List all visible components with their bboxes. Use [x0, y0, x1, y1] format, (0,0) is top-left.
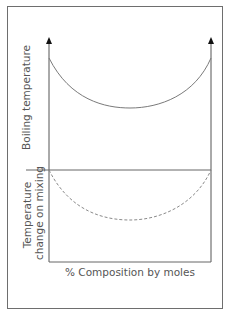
boiling-temperature-label: Boiling temperature: [20, 54, 32, 150]
boiling-temperature-curve: [49, 58, 211, 108]
mixing-label-line1: Temperature: [21, 170, 33, 260]
composition-axis-label: % Composition by moles: [49, 266, 211, 278]
left-axis-arrow-icon: [46, 37, 52, 44]
mixing-label-line2: change on mixing: [33, 170, 45, 260]
mixing-temperature-label: Temperature change on mixing: [21, 170, 45, 260]
right-axis-arrow-icon: [208, 37, 214, 44]
mixing-temperature-curve: [49, 170, 211, 220]
